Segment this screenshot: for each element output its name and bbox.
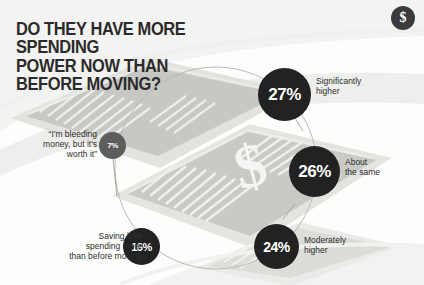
segment-bleeding-money-label: “I'm bleeding money, but it's worth it” xyxy=(22,129,97,159)
segment-about-the-same-label: About the same xyxy=(345,157,380,177)
segment-moderately-higher-bubble[interactable]: 24% xyxy=(254,224,299,269)
segment-saving-less-label: Saving less spending more than before mo… xyxy=(52,231,142,261)
segment-value: 24% xyxy=(263,239,290,255)
infographic-canvas: $ DO THEY HAVE MORE SPENDING POWER NOW T… xyxy=(0,0,424,285)
page-title: DO THEY HAVE MORE SPENDING POWER NOW THA… xyxy=(16,20,270,94)
segment-about-the-same-bubble[interactable]: 26% xyxy=(289,146,340,197)
segment-value: 26% xyxy=(298,162,331,182)
segment-value: 27% xyxy=(268,85,301,105)
segment-significantly-higher-label: Significantly higher xyxy=(316,76,361,96)
segment-moderately-higher-label: Moderately higher xyxy=(304,235,346,255)
segment-bleeding-money-bubble[interactable]: 7% xyxy=(99,132,126,159)
dollar-symbol: $ xyxy=(400,11,407,25)
segment-value: 7% xyxy=(107,141,118,150)
dollar-badge-icon: $ xyxy=(391,6,415,30)
